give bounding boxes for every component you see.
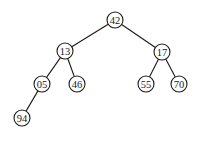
edge-42-17 (122, 25, 156, 48)
edge-17-55 (150, 59, 159, 77)
edge-05-94 (26, 91, 38, 111)
tree-node-17: 17 (154, 44, 170, 60)
tree-diagram: 4213170546557094 (0, 0, 197, 141)
tree-node-46: 46 (69, 76, 85, 92)
edges-group (26, 24, 175, 111)
edge-42-13 (72, 24, 108, 47)
node-label: 94 (17, 113, 28, 124)
tree-node-70: 70 (171, 76, 187, 92)
edge-13-46 (68, 59, 75, 77)
node-label: 55 (141, 79, 152, 90)
tree-node-94: 94 (14, 110, 30, 126)
tree-node-05: 05 (34, 76, 50, 92)
edge-17-70 (166, 59, 175, 77)
node-label: 70 (174, 79, 185, 90)
node-label: 46 (72, 79, 83, 90)
tree-svg: 4213170546557094 (0, 0, 197, 141)
node-label: 42 (110, 15, 121, 26)
node-label: 05 (37, 79, 48, 90)
tree-node-13: 13 (57, 43, 73, 59)
tree-node-55: 55 (138, 76, 154, 92)
node-label: 13 (60, 46, 71, 57)
node-label: 17 (157, 47, 168, 58)
tree-node-42: 42 (107, 12, 123, 28)
edge-13-05 (47, 58, 61, 78)
